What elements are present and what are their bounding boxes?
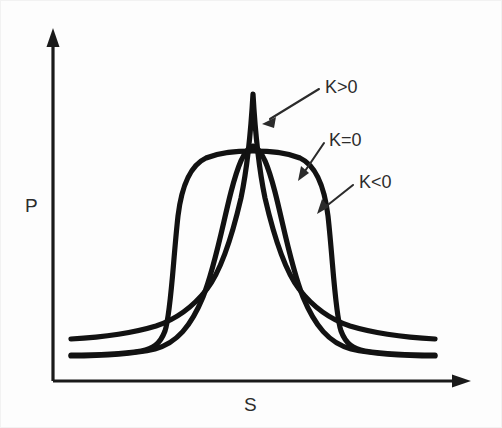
leptokurtic-curve	[71, 94, 435, 339]
k-negative-label: K<0	[359, 173, 392, 191]
plot-canvas	[1, 1, 502, 428]
k-positive-leader-arrowhead	[262, 117, 276, 128]
k-positive-label: K>0	[325, 78, 358, 96]
kurtosis-figure: P S K>0 K=0 K<0	[0, 0, 502, 428]
k-negative-leader-line	[324, 185, 353, 208]
k-positive-leader-line	[270, 89, 319, 119]
vertical-axis-arrowhead	[47, 28, 60, 47]
x-axis-label: S	[244, 395, 257, 414]
y-axis-label: P	[25, 196, 38, 215]
horizontal-axis-arrowhead	[452, 375, 471, 388]
curves-group	[71, 94, 435, 356]
k-zero-label: K=0	[329, 131, 362, 149]
